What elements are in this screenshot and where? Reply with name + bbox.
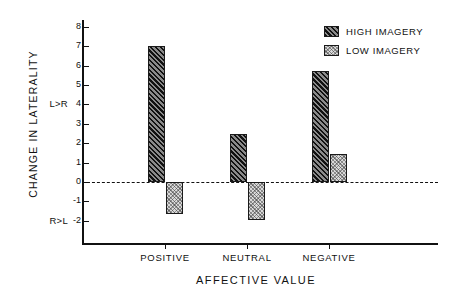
y-axis-tick-label: 6 <box>76 60 81 70</box>
chart-figure: CHANGE IN LATERALITY 876543210-1-2 L>RR>… <box>0 0 472 296</box>
y-axis-title: CHANGE IN LATERALITY <box>27 29 39 219</box>
y-axis-side-annotation: L>R <box>49 98 68 109</box>
x-axis-tick <box>247 243 248 249</box>
y-axis-tick: 7 <box>84 46 89 47</box>
y-axis-tick-label: 5 <box>76 79 81 89</box>
y-axis-tick: 0 <box>84 182 89 183</box>
y-axis-tick: 6 <box>84 66 89 67</box>
y-axis-tick: 5 <box>84 85 89 86</box>
legend-swatch-high-imagery <box>324 26 339 37</box>
bar-negative-low-imagery <box>330 154 347 182</box>
x-axis-category-label: POSITIVE <box>140 252 189 263</box>
bar-positive-low-imagery <box>166 182 183 214</box>
y-axis-tick: -2 <box>84 221 89 222</box>
bar-neutral-high-imagery <box>230 134 247 183</box>
bar-negative-high-imagery <box>312 71 329 182</box>
y-axis-tick-label: 2 <box>76 137 81 147</box>
x-axis-tick <box>165 243 166 249</box>
x-axis-title: AFFECTIVE VALUE <box>0 274 472 286</box>
y-axis-tick: 8 <box>84 27 89 28</box>
legend-item: HIGH IMAGERY <box>324 26 423 37</box>
y-axis-tick-label: 4 <box>76 98 81 108</box>
bar-positive-high-imagery <box>148 46 165 182</box>
y-axis-tick: 2 <box>84 143 89 144</box>
y-axis-tick-label: 8 <box>76 21 81 31</box>
legend-label: HIGH IMAGERY <box>346 26 423 37</box>
y-axis-tick: 4 <box>84 104 89 105</box>
y-axis-tick-label: 1 <box>76 157 81 167</box>
y-axis-tick: 3 <box>84 124 89 125</box>
x-axis-category-label: NEUTRAL <box>222 252 271 263</box>
y-axis-tick-label: -1 <box>73 195 81 205</box>
y-axis-tick-label: 0 <box>76 176 81 186</box>
bar-neutral-low-imagery <box>248 182 265 220</box>
y-axis-tick: -1 <box>84 201 89 202</box>
y-axis-tick-label: -2 <box>73 215 81 225</box>
y-axis-tick-label: 3 <box>76 118 81 128</box>
legend-item: LOW IMAGERY <box>324 45 423 56</box>
y-axis-tick: 1 <box>84 163 89 164</box>
chart-legend: HIGH IMAGERYLOW IMAGERY <box>324 26 423 64</box>
x-axis-tick <box>329 243 330 249</box>
y-axis-tick-label: 7 <box>76 40 81 50</box>
legend-label: LOW IMAGERY <box>346 45 421 56</box>
y-axis-side-annotation: R>L <box>49 215 68 226</box>
legend-swatch-low-imagery <box>324 45 339 56</box>
x-axis-line <box>82 243 438 245</box>
x-axis-category-label: NEGATIVE <box>303 252 356 263</box>
y-axis-line <box>82 20 84 245</box>
